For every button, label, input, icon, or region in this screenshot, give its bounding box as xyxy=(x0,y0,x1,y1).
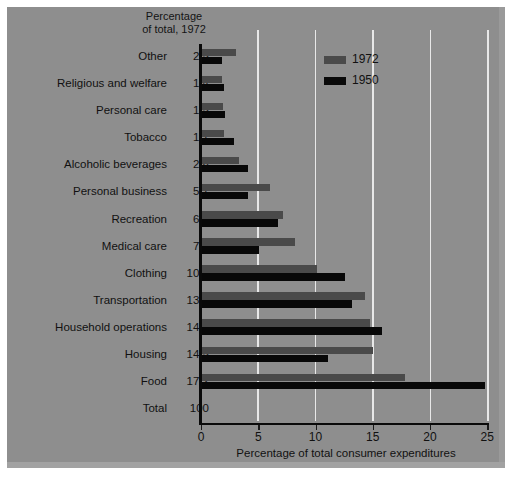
chart-row-percentage: 100 xyxy=(175,402,209,414)
chart-row: Transportation13.8 xyxy=(0,290,515,317)
bar-1950 xyxy=(201,382,485,390)
bar-1950 xyxy=(201,219,278,227)
x-tick-label: 10 xyxy=(301,430,331,444)
bar-1950 xyxy=(201,84,224,92)
bar-1972 xyxy=(201,211,283,219)
percentage-column-header-line2: of total, 1972 xyxy=(118,23,230,36)
bar-1950 xyxy=(201,57,222,65)
chart-row-label: Housing xyxy=(125,348,167,360)
chart-row: Medical care7.9 xyxy=(0,236,515,263)
bar-1972 xyxy=(201,374,405,382)
bar-1972 xyxy=(201,238,295,246)
legend-label-1950: 1950 xyxy=(352,73,379,87)
x-tick-label: 15 xyxy=(358,430,388,444)
percentage-column-header: Percentage of total, 1972 xyxy=(118,10,230,36)
bar-1972 xyxy=(201,184,270,192)
chart-row: Religious and welfare1.4 xyxy=(0,73,515,100)
x-tick-label: 0 xyxy=(186,430,216,444)
plate-bottom-edge xyxy=(7,462,505,468)
bar-1972 xyxy=(201,319,370,327)
bar-1950 xyxy=(201,300,352,308)
chart-row: Housing14.5 xyxy=(0,344,515,371)
chart-row-label: Personal business xyxy=(73,185,167,197)
chart-row-label: Religious and welfare xyxy=(57,77,167,89)
chart-row: Recreation6.6 xyxy=(0,209,515,236)
chart-row-label: Recreation xyxy=(111,213,167,225)
percentage-column-header-line1: Percentage xyxy=(118,10,230,23)
legend-swatch-1950-icon xyxy=(324,77,346,85)
bar-1950 xyxy=(201,111,225,119)
bar-1972 xyxy=(201,292,365,300)
bar-1950 xyxy=(201,165,248,173)
legend-swatch-1972-icon xyxy=(324,56,346,64)
chart-row-label: Total xyxy=(143,402,167,414)
chart-rows: Other2.5Religious and welfare1.4Personal… xyxy=(0,46,515,425)
chart-row: Other2.5 xyxy=(0,46,515,73)
figure-caption xyxy=(6,472,336,478)
chart-row-label: Food xyxy=(141,375,167,387)
chart-row: Clothing10.0 xyxy=(0,263,515,290)
bar-1950 xyxy=(201,192,248,200)
chart-row-label: Household operations xyxy=(55,321,167,333)
bar-1972 xyxy=(201,130,224,138)
chart-row-label: Clothing xyxy=(125,267,167,279)
chart-row: Personal care1.5 xyxy=(0,100,515,127)
bar-1972 xyxy=(201,49,236,57)
chart-row-label: Medical care xyxy=(102,240,167,252)
chart-row: Alcoholic beverages2.8 xyxy=(0,154,515,181)
bar-1950 xyxy=(201,138,234,146)
bar-1950 xyxy=(201,246,259,254)
chart-row-label: Personal care xyxy=(96,104,167,116)
y-axis-line xyxy=(199,44,202,425)
chart-row: Tobacco1.7 xyxy=(0,127,515,154)
chart-row-label: Tobacco xyxy=(124,131,167,143)
chart-row: Food17.2 xyxy=(0,371,515,398)
x-axis-title: Percentage of total consumer expenditure… xyxy=(201,447,491,459)
chart-row: Total100 xyxy=(0,398,515,425)
x-tick-label: 5 xyxy=(243,430,273,444)
chart-figure: Percentage of total, 1972 Other2.5Religi… xyxy=(0,0,515,480)
bar-1950 xyxy=(201,273,345,281)
chart-row-label: Alcoholic beverages xyxy=(64,158,167,170)
x-tick-label: 20 xyxy=(415,430,445,444)
x-axis-line xyxy=(199,423,489,425)
x-tick-label: 25 xyxy=(472,430,502,444)
legend-label-1972: 1972 xyxy=(352,52,379,66)
chart-row-label: Transportation xyxy=(93,294,167,306)
chart-row-label: Other xyxy=(138,50,167,62)
bar-1972 xyxy=(201,347,373,355)
bar-1972 xyxy=(201,76,222,84)
chart-row: Household operations14.4 xyxy=(0,317,515,344)
bar-1972 xyxy=(201,157,239,165)
bar-1972 xyxy=(201,103,223,111)
bar-1950 xyxy=(201,355,328,363)
chart-row: Personal business5.7 xyxy=(0,181,515,208)
bar-1950 xyxy=(201,327,382,335)
bar-1972 xyxy=(201,265,317,273)
